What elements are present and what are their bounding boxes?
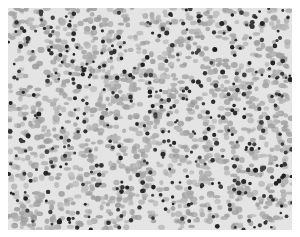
cell-texture [8,8,292,230]
micrograph-field [8,8,292,230]
